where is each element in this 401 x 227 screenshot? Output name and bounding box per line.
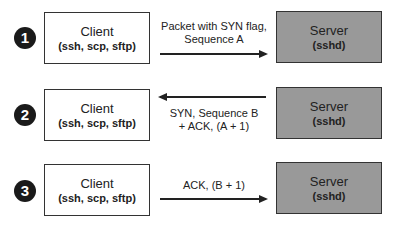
server-subtitle: (sshd) <box>313 189 346 203</box>
packet-label: ACK, (B + 1) <box>155 179 273 192</box>
client-box: Client (ssh, scp, sftp) <box>44 164 150 216</box>
server-box: Server (sshd) <box>276 87 382 139</box>
packet-label-line-1: Packet with SYN flag, <box>155 20 273 33</box>
server-box: Server (sshd) <box>276 11 382 63</box>
step-number-badge: 2 <box>14 104 36 126</box>
handshake-step-2: 2 Client (ssh, scp, sftp) SYN, Sequence … <box>0 86 401 146</box>
client-box: Client (ssh, scp, sftp) <box>44 89 150 141</box>
packet-label-line-1: SYN, Sequence B <box>155 107 273 120</box>
packet-label: SYN, Sequence B + ACK, (A + 1) <box>155 107 273 133</box>
arrow-right-icon <box>160 198 266 200</box>
arrow-right-icon <box>160 53 266 55</box>
handshake-step-1: 1 Client (ssh, scp, sftp) Packet with SY… <box>0 10 401 70</box>
packet-label-line-2: Sequence A <box>155 33 273 46</box>
server-subtitle: (sshd) <box>313 114 346 128</box>
client-subtitle: (ssh, scp, sftp) <box>58 191 136 205</box>
client-title: Client <box>80 176 113 191</box>
server-title: Server <box>310 23 348 38</box>
handshake-step-3: 3 Client (ssh, scp, sftp) ACK, (B + 1) S… <box>0 162 401 222</box>
packet-label-line-1: ACK, (B + 1) <box>155 179 273 192</box>
client-subtitle: (ssh, scp, sftp) <box>58 116 136 130</box>
step-number-badge: 3 <box>14 180 36 202</box>
arrow-left-icon <box>160 96 266 98</box>
server-title: Server <box>310 99 348 114</box>
server-box: Server (sshd) <box>276 162 382 214</box>
client-box: Client (ssh, scp, sftp) <box>44 12 150 64</box>
client-title: Client <box>80 101 113 116</box>
packet-label: Packet with SYN flag, Sequence A <box>155 20 273 46</box>
packet-label-line-2: + ACK, (A + 1) <box>155 120 273 133</box>
client-subtitle: (ssh, scp, sftp) <box>58 39 136 53</box>
server-subtitle: (sshd) <box>313 38 346 52</box>
step-number-badge: 1 <box>14 27 36 49</box>
client-title: Client <box>80 24 113 39</box>
server-title: Server <box>310 174 348 189</box>
